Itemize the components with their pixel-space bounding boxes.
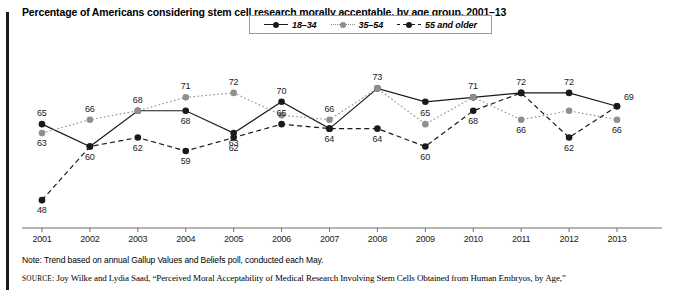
data-point-marker [326, 116, 333, 123]
data-point-label: 64 [372, 134, 382, 144]
data-point-marker [182, 94, 189, 101]
legend-label: 35–54 [359, 20, 384, 30]
x-axis-tick-label: 2013 [600, 234, 634, 244]
data-point-label: 66 [85, 104, 95, 114]
x-axis-tick-label: 2008 [360, 234, 394, 244]
data-point-marker [87, 143, 94, 150]
data-point-label: 72 [516, 77, 526, 87]
data-point-label: 68 [181, 116, 191, 126]
data-point-marker [470, 94, 477, 101]
chart-lines-svg [0, 40, 684, 240]
data-point-label: 66 [325, 104, 335, 114]
legend-marker-icon [406, 22, 412, 28]
data-point-marker [230, 90, 237, 97]
legend-marker-icon [340, 22, 346, 28]
data-point-label: 63 [37, 138, 47, 148]
data-point-label: 59 [181, 156, 191, 166]
data-point-label: 62 [133, 143, 143, 153]
figure-note: Note: Trend based on annual Gallup Value… [22, 255, 323, 265]
x-axis-tick-label: 2002 [73, 234, 107, 244]
data-point-label: 65 [420, 108, 430, 118]
chart-plot-area: 6560686863706473717272696366717266656666… [0, 40, 684, 240]
data-point-marker [135, 107, 142, 114]
data-point-marker [518, 90, 525, 97]
data-point-marker [614, 116, 621, 123]
data-point-marker [39, 121, 46, 128]
data-point-marker [374, 85, 381, 92]
figure-container: Percentage of Americans considering stem… [0, 0, 684, 290]
data-point-marker [614, 103, 621, 110]
source-prefix: SOURCE [22, 274, 52, 283]
data-point-marker [422, 143, 429, 150]
data-point-marker [422, 99, 429, 106]
x-axis-tick-label: 2003 [121, 234, 155, 244]
figure-source: SOURCE: Joy Wilke and Lydia Saad, “Perce… [22, 273, 566, 283]
data-point-label: 68 [468, 116, 478, 126]
data-point-marker [182, 107, 189, 114]
x-axis-tick-label: 2007 [313, 234, 347, 244]
data-point-marker [39, 197, 46, 204]
legend-label: 18–34 [292, 20, 317, 30]
data-point-label: 71 [468, 81, 478, 91]
data-point-marker [518, 116, 525, 123]
data-point-label: 60 [85, 152, 95, 162]
data-point-label: 48 [37, 205, 47, 215]
legend-swatch-icon [331, 20, 355, 29]
data-point-marker [566, 107, 573, 114]
data-point-label: 69 [624, 92, 634, 102]
data-point-marker [182, 148, 189, 155]
data-point-marker [566, 134, 573, 141]
x-axis-tick-label: 2001 [25, 234, 59, 244]
data-point-marker [326, 125, 333, 132]
data-point-marker [278, 99, 285, 106]
data-point-marker [374, 125, 381, 132]
data-point-marker [422, 121, 429, 128]
data-point-label: 65 [37, 108, 47, 118]
x-axis-tick-label: 2009 [408, 234, 442, 244]
chart-legend: 18–3435–5455 and older [249, 15, 492, 34]
data-point-label: 60 [420, 152, 430, 162]
data-point-marker [566, 90, 573, 97]
x-axis-tick-label: 2006 [265, 234, 299, 244]
source-text: : Joy Wilke and Lydia Saad, “Perceived M… [52, 273, 566, 283]
legend-swatch-icon [397, 20, 421, 29]
x-axis-tick-label: 2005 [217, 234, 251, 244]
data-point-label: 62 [564, 143, 574, 153]
data-point-label: 72 [229, 77, 239, 87]
legend-marker-icon [273, 22, 279, 28]
legend-swatch-icon [264, 20, 288, 29]
data-point-label: 70 [277, 86, 287, 96]
data-point-label: 66 [612, 125, 622, 135]
legend-entry-1: 35–54 [331, 20, 384, 30]
legend-entry-2: 55 and older [397, 20, 477, 30]
data-point-label: 72 [564, 77, 574, 87]
data-point-label: 73 [372, 72, 382, 82]
data-point-label: 64 [325, 134, 335, 144]
x-axis-tick-label: 2010 [456, 234, 490, 244]
data-point-label: 62 [229, 143, 239, 153]
x-axis-tick-label: 2012 [552, 234, 586, 244]
data-point-marker [470, 107, 477, 114]
data-point-marker [39, 130, 46, 137]
legend-entry-0: 18–34 [264, 20, 317, 30]
x-axis-tick-label: 2011 [504, 234, 538, 244]
data-point-marker [87, 116, 94, 123]
data-point-marker [135, 134, 142, 141]
data-point-marker [278, 121, 285, 128]
data-point-label: 65 [277, 108, 287, 118]
x-axis-tick-label: 2004 [169, 234, 203, 244]
legend-label: 55 and older [425, 20, 477, 30]
data-point-label: 66 [516, 125, 526, 135]
data-point-label: 71 [181, 81, 191, 91]
data-point-label: 68 [133, 95, 143, 105]
